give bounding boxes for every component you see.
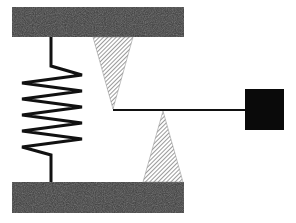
- mass-block: [245, 89, 284, 130]
- bottom-plate: [12, 182, 184, 213]
- top-plate: [12, 7, 184, 37]
- lower-pivot: [143, 111, 183, 182]
- mechanism-diagram: [0, 0, 296, 223]
- spring: [22, 37, 82, 182]
- upper-pivot: [93, 37, 133, 109]
